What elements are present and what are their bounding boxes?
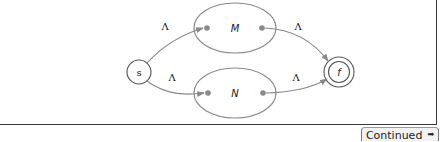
machine-m-label: M xyxy=(231,23,240,34)
edge-label-s-n: Λ xyxy=(167,72,176,83)
continued-tab[interactable]: Continued ➡ xyxy=(361,127,439,141)
machine-n-final-dot xyxy=(260,90,266,96)
edge-label-n-f: Λ xyxy=(291,72,300,83)
edge-label-s-m: Λ xyxy=(160,21,169,32)
nfa-diagram: M N s f Λ Λ Λ Λ xyxy=(0,0,443,141)
machine-n-start-dot xyxy=(205,90,211,96)
machine-m-start-dot xyxy=(204,25,210,31)
machine-m: M xyxy=(194,3,276,53)
machine-n: N xyxy=(194,68,276,118)
machine-n-label: N xyxy=(231,88,239,99)
start-state-label: s xyxy=(136,67,141,78)
start-state-s: s xyxy=(127,60,151,84)
final-state-f: f xyxy=(324,57,354,87)
continued-label: Continued xyxy=(366,129,422,142)
arrow-right-icon: ➡ xyxy=(427,131,434,139)
machine-m-final-dot xyxy=(259,25,265,31)
edge-label-m-f: Λ xyxy=(293,21,302,32)
edge-m-to-f xyxy=(265,28,328,61)
